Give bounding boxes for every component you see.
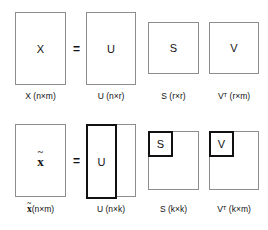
- caption-v-transpose-truncated-text: Vᵀ (k×m): [217, 204, 251, 214]
- caption-s-truncated: S (k×k): [143, 205, 204, 214]
- matrix-symbol-v-full: V: [210, 43, 258, 54]
- matrix-symbol-x-full: X: [16, 43, 65, 54]
- matrix-box-x-tilde: x: [15, 124, 66, 197]
- matrix-box-s-full: S: [148, 22, 199, 74]
- matrix-symbol-s-full: S: [149, 43, 198, 54]
- matrix-symbol-u-full: U: [87, 43, 135, 54]
- equals-sign-full: =: [73, 43, 80, 55]
- subblock-v-k-rows: V: [209, 131, 234, 157]
- matrix-symbol-s-truncated: S: [150, 139, 171, 150]
- caption-u-full: U (n×r): [80, 92, 142, 101]
- matrix-box-u-truncated: U: [86, 124, 136, 197]
- svd-diagram: X = U S V X (n×m) U (n×r) S (r×r) Vᵀ (r×…: [0, 0, 268, 230]
- caption-x-tilde-symbol: x: [27, 204, 32, 214]
- matrix-symbol-x-tilde: x: [16, 154, 65, 167]
- caption-v-transpose-truncated: Vᵀ (k×m): [202, 205, 266, 214]
- caption-x-full: X (n×m): [10, 92, 71, 101]
- caption-u-truncated: U (n×k): [80, 205, 142, 214]
- matrix-box-s-truncated: S: [148, 131, 199, 190]
- matrix-box-x-full: X: [15, 12, 66, 85]
- subblock-s-k-by-k: S: [148, 131, 173, 157]
- equals-sign-truncated: =: [73, 155, 80, 167]
- subblock-u-k-columns: U: [86, 124, 117, 199]
- caption-s-full: S (r×r): [143, 92, 204, 101]
- caption-x-tilde: x(n×m): [10, 205, 71, 215]
- caption-v-transpose-full: Vᵀ (r×m): [202, 92, 266, 101]
- matrix-box-v-truncated: V: [209, 131, 259, 190]
- caption-x-tilde-dims: (n×m): [32, 204, 54, 214]
- matrix-box-u-full: U: [86, 12, 136, 85]
- matrix-box-v-full: V: [209, 22, 259, 74]
- caption-v-transpose-full-text: Vᵀ (r×m): [218, 91, 250, 101]
- matrix-symbol-v-truncated: V: [211, 139, 232, 150]
- matrix-symbol-u-truncated: U: [88, 156, 115, 167]
